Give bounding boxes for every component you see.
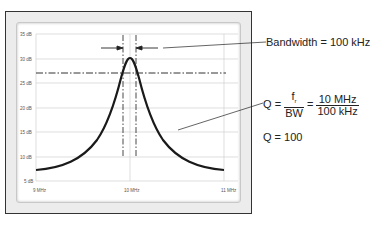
equals-sign: = [275, 98, 281, 110]
bw-symbol: BW [284, 108, 304, 119]
y-axis-labels: 35 dB 30 dB 25 dB 20 dB 15 dB 10 dB 5 dB [20, 32, 33, 184]
x-axis-labels: 9 MHz 10 MHz 11 MHz [33, 188, 237, 193]
q-formula: Q = fr BW = 10 MHz 100 kHz [263, 91, 359, 119]
svg-text:35 dB: 35 dB [20, 32, 32, 37]
svg-text:30 dB: 30 dB [20, 57, 32, 62]
svg-text:15 dB: 15 dB [20, 130, 32, 135]
equals-sign-2: = [307, 98, 313, 110]
svg-text:11 MHz: 11 MHz [221, 188, 237, 193]
svg-text:5 dB: 5 dB [24, 179, 33, 184]
fr-over-bw: fr BW [284, 91, 304, 119]
value-fraction: 10 MHz 100 kHz [316, 94, 358, 117]
svg-text:25 dB: 25 dB [20, 81, 32, 86]
q-symbol: Q [263, 98, 272, 110]
q-leader-line [178, 103, 263, 130]
grid [36, 34, 238, 181]
svg-text:10 dB: 10 dB [20, 155, 32, 160]
q-result: Q = 100 [263, 131, 302, 143]
bandwidth-arrows [101, 42, 266, 50]
svg-text:9 MHz: 9 MHz [33, 188, 47, 193]
denominator-value: 100 kHz [316, 106, 358, 117]
numerator-value: 10 MHz [316, 94, 358, 106]
fr-symbol: fr [284, 91, 304, 108]
svg-text:10 MHz: 10 MHz [124, 188, 140, 193]
svg-text:20 dB: 20 dB [20, 106, 32, 111]
bandwidth-label: Bandwidth = 100 kHz [266, 36, 370, 48]
